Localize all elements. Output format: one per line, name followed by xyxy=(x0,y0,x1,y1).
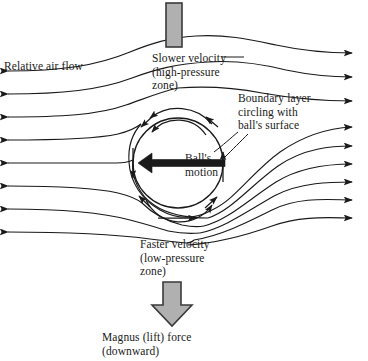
streamline-right-8 xyxy=(194,199,352,240)
streamline-left-4 xyxy=(8,124,141,140)
spin-indicator-bar xyxy=(166,3,182,47)
label-relative-air-flow: Relative air flow xyxy=(4,60,83,74)
spin-tick-ne xyxy=(206,117,218,127)
streamlines-wrap xyxy=(129,124,212,243)
label-ball-motion: Ball's motion xyxy=(185,152,218,179)
streamline-left-7 xyxy=(8,209,168,231)
magnus-effect-diagram: Relative air flow Slower velocity (high-… xyxy=(0,0,368,361)
streamline-right-4 xyxy=(212,127,352,210)
streamline-left-6 xyxy=(8,186,142,203)
streamline-right-9 xyxy=(188,218,352,245)
label-magnus-force: Magnus (lift) force (downward) xyxy=(102,331,191,358)
streamline-top-1 xyxy=(196,36,352,53)
wrap-line-3 xyxy=(142,203,204,227)
label-faster-velocity: Faster velocity (low-pressure zone) xyxy=(140,238,210,279)
streamline-left-5 xyxy=(8,160,133,163)
streamline-top-2 xyxy=(208,61,352,77)
streamlines-right xyxy=(188,127,352,245)
spin-tick-nw xyxy=(141,117,152,127)
streamline-right-6 xyxy=(204,164,352,226)
label-slower-velocity: Slower velocity (high-pressure zone) xyxy=(152,52,226,93)
leader-boundary-2 xyxy=(224,134,248,158)
label-boundary-layer: Boundary layer circling with ball's surf… xyxy=(238,92,311,133)
wrap-line-4 xyxy=(168,231,200,233)
magnus-force-arrow xyxy=(152,282,192,326)
streamline-right-7 xyxy=(200,182,352,233)
